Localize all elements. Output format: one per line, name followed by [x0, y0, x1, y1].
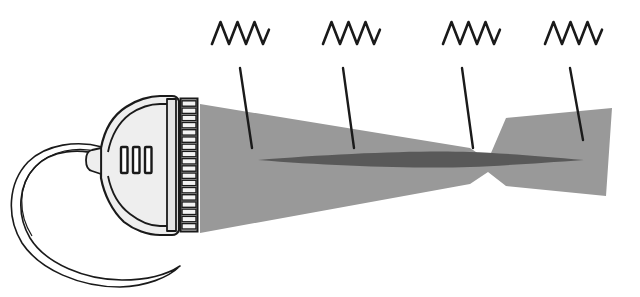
array-element	[182, 108, 196, 113]
wave-symbol-icon	[545, 22, 602, 44]
array-element	[182, 144, 196, 149]
cable-strain-relief	[86, 148, 101, 174]
array-element	[182, 187, 196, 192]
grip-slot-3	[145, 147, 152, 173]
array-element	[182, 115, 196, 120]
array-element	[182, 216, 196, 221]
ultrasound-beam-group	[200, 104, 612, 233]
probe-nose	[167, 99, 176, 231]
wave-symbol-icon	[443, 22, 500, 44]
array-element	[182, 159, 196, 164]
array-element	[182, 209, 196, 214]
wave-leader-line	[462, 68, 473, 148]
wave-symbol-icon	[212, 22, 269, 44]
array-element	[182, 180, 196, 185]
diagram-canvas: Focused ultrasound transducer and beam p…	[0, 0, 640, 297]
array-element	[182, 137, 196, 142]
array-element	[182, 122, 196, 127]
array-element	[182, 224, 196, 229]
array-element	[182, 166, 196, 171]
ultrasound-beam-shape	[200, 104, 612, 233]
grip-slots-group	[121, 147, 152, 173]
array-element	[182, 151, 196, 156]
wave-symbol-icon	[323, 22, 380, 44]
array-element	[182, 173, 196, 178]
array-element	[182, 130, 196, 135]
array-element	[182, 202, 196, 207]
wave-3	[443, 22, 500, 148]
ultrasound-transducer-diagram	[0, 0, 640, 297]
grip-slot-1	[121, 147, 128, 173]
transducer-array-face	[181, 99, 198, 232]
grip-slot-2	[133, 147, 140, 173]
array-element	[182, 101, 196, 106]
array-element	[182, 195, 196, 200]
